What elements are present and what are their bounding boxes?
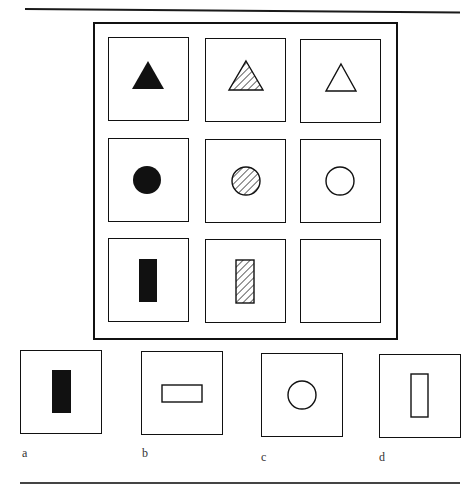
solid-triangle-icon xyxy=(109,38,188,120)
outline-triangle-icon xyxy=(301,40,380,122)
matrix-cell-r2c3 xyxy=(300,139,381,223)
option-c-label: c xyxy=(261,450,266,465)
hatched-triangle-icon xyxy=(206,39,285,121)
hatched-circle-icon xyxy=(206,140,285,222)
bottom-rule xyxy=(20,482,460,484)
solid-circle-icon xyxy=(109,139,188,221)
matrix-cell-r1c3 xyxy=(300,39,381,123)
solid-rectangle-icon xyxy=(109,239,188,321)
matrix-cell-r1c2 xyxy=(205,38,286,122)
solid-rectangle-icon xyxy=(21,351,101,433)
hatched-rectangle-icon xyxy=(206,240,285,322)
option-d-label: d xyxy=(379,450,385,465)
option-a[interactable] xyxy=(20,350,102,434)
option-b-label: b xyxy=(142,446,148,461)
matrix-cell-r2c1 xyxy=(108,138,189,222)
matrix-cell-r3c3-missing xyxy=(300,239,381,323)
top-rule xyxy=(25,8,460,13)
matrix-cell-r1c1 xyxy=(108,37,189,121)
matrix-cell-r2c2 xyxy=(205,139,286,223)
option-c[interactable] xyxy=(261,353,343,437)
option-d[interactable] xyxy=(379,354,461,438)
outline-vertical-rectangle-icon xyxy=(380,355,460,437)
matrix-cell-r3c1 xyxy=(108,238,189,322)
outline-circle-icon xyxy=(301,140,380,222)
outline-circle-icon xyxy=(262,354,342,436)
option-b[interactable] xyxy=(141,351,223,435)
option-a-label: a xyxy=(22,446,27,461)
outline-horizontal-rectangle-icon xyxy=(142,352,222,434)
matrix-cell-r3c2 xyxy=(205,239,286,323)
